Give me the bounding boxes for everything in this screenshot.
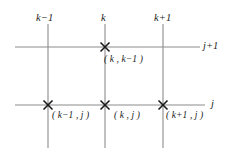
row-label-j-plus-1: j+1 [203,41,218,52]
grid-stencil-figure: k−1 k k+1 j+1 j ( k , k−1 ) ( k−1 , j ) … [0,0,229,148]
node-label-km1-j: ( k−1 , j ) [52,111,89,121]
node-label-k-j: ( k , j ) [114,111,140,121]
column-label-k-minus-1: k−1 [36,13,53,24]
column-label-k-plus-1: k+1 [154,13,171,24]
grid-lines-svg [0,0,229,148]
node-label-kp1-j: ( k+1 , j ) [166,111,203,121]
row-label-j: j [211,99,214,110]
vertical-grid-lines [48,24,163,148]
node-label-k-km1: ( k , k−1 ) [104,55,143,65]
column-label-k: k [101,13,106,24]
